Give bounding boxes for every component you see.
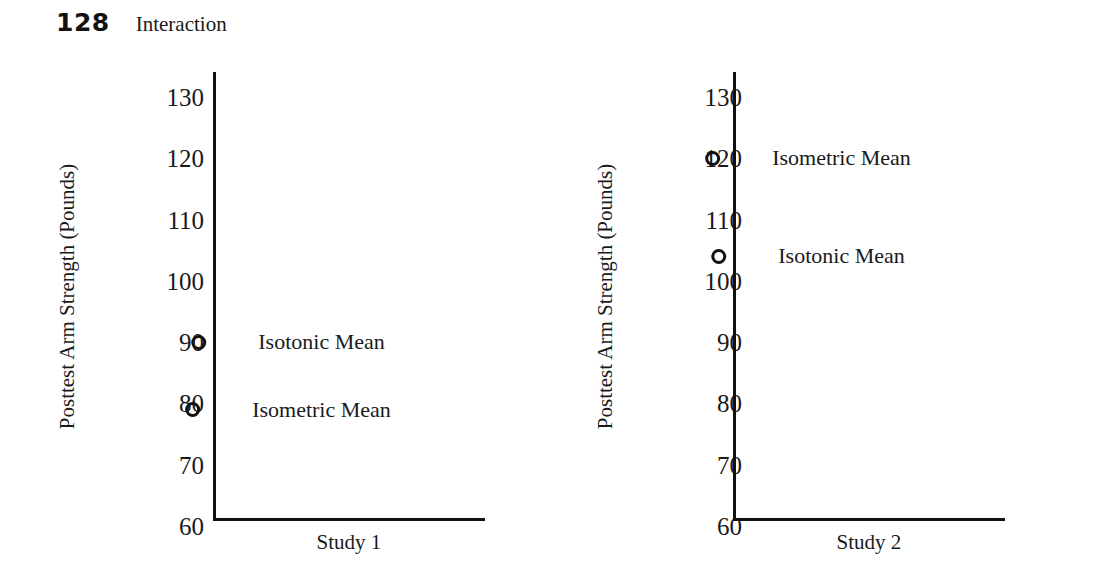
y-axis-tick-labels: 13012011010090807060: [130, 62, 204, 522]
data-point: Isometric Mean: [705, 145, 911, 171]
open-circle-marker-icon: [711, 249, 726, 264]
chart-panel-study-2: Posttest Arm Strength (Pounds) 130120110…: [520, 62, 1040, 578]
data-point-label: Isotonic Mean: [778, 243, 904, 269]
y-tick-label-110: 110: [167, 207, 204, 232]
data-point-label: Isometric Mean: [772, 145, 911, 171]
data-point-label: Isometric Mean: [252, 397, 391, 423]
plot-area: Isometric MeanIsotonic Mean: [736, 62, 1006, 522]
y-tick-label-120: 120: [167, 146, 205, 171]
data-point: Isotonic Mean: [191, 329, 384, 355]
open-circle-marker-icon: [705, 151, 720, 166]
y-tick-label-100: 100: [167, 268, 205, 293]
data-point-label: Isotonic Mean: [258, 329, 384, 355]
y-tick-label-60: 60: [179, 514, 204, 539]
y-axis-title: Posttest Arm Strength (Pounds): [593, 107, 618, 487]
data-point: Isotonic Mean: [711, 243, 904, 269]
y-tick-label-130: 130: [167, 85, 205, 110]
chart-panel-study-1: Posttest Arm Strength (Pounds) 130120110…: [0, 62, 520, 578]
plot-area: Isotonic MeanIsometric Mean: [216, 62, 486, 522]
y-tick-label-70: 70: [179, 452, 204, 477]
x-axis-caption: Study 1: [213, 530, 485, 555]
open-circle-marker-icon: [191, 335, 206, 350]
page-header: 128 Interaction: [56, 8, 227, 37]
running-head: Interaction: [136, 12, 227, 37]
y-axis-title: Posttest Arm Strength (Pounds): [55, 107, 80, 487]
x-axis-caption: Study 2: [733, 530, 1005, 555]
page-number: 128: [56, 8, 110, 37]
y-axis-tick-labels: 13012011010090807060: [668, 62, 742, 522]
open-circle-marker-icon: [185, 402, 200, 417]
data-point: Isometric Mean: [185, 397, 391, 423]
